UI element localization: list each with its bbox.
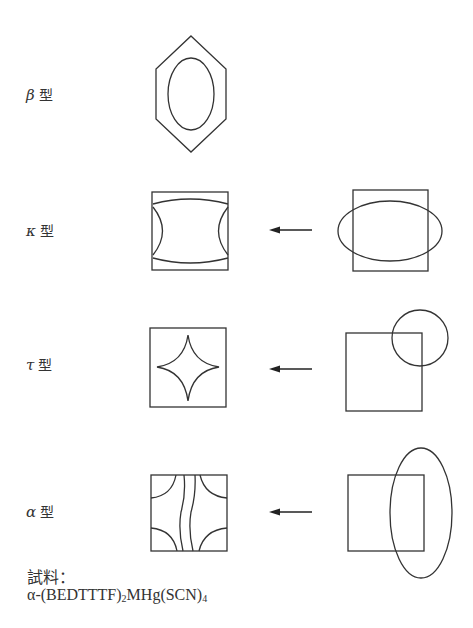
tau-result-shape	[150, 328, 226, 407]
alpha-result-shape	[151, 475, 227, 551]
sample-formula: α-(BEDTTTF)2MHg(SCN)4	[27, 586, 207, 604]
beta-hexagon-shape	[156, 36, 226, 152]
kappa-source-shape	[338, 190, 442, 271]
formula-mid: MHg(SCN)	[127, 586, 203, 603]
sample-caption-title: 試料：	[27, 564, 75, 588]
formula-prefix: α-(BEDTTTF)	[27, 586, 122, 603]
tau-source-shape	[346, 310, 448, 411]
alpha-source-shape	[348, 448, 452, 578]
kappa-result-shape	[152, 192, 228, 270]
formula-subscript-2: 4	[202, 593, 207, 604]
fermi-surface-diagram	[0, 0, 473, 628]
